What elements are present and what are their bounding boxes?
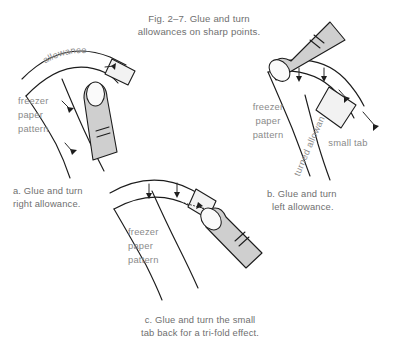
panel-a-pattern-line-2: paper: [18, 109, 43, 120]
panel-b-caption-line-2: left allowance.: [272, 201, 334, 212]
panel-c-pattern-line-2: paper: [128, 240, 153, 251]
panel-a-pattern-line-1: freezer: [18, 95, 49, 106]
panel-b-pattern-line-3: pattern: [253, 129, 284, 140]
panel-a-caption: a. Glue and turn right allowance.: [13, 185, 83, 209]
panel-c-pattern-label: freezer paper pattern: [128, 226, 159, 265]
panel-c-pattern-line-1: freezer: [128, 226, 159, 237]
panel-a-arrow-stem-3: [65, 143, 72, 151]
panel-b-pattern-line-2: paper: [256, 115, 281, 126]
panel-c-diagram: freezer paper pattern c. Glue and turn t…: [110, 180, 262, 338]
panel-a-caption-line-2: right allowance.: [13, 198, 81, 209]
panel-c-thumb: [197, 204, 262, 268]
panel-a-tab: [105, 59, 135, 85]
figure-title-line-2: allowances on sharp points.: [138, 26, 260, 37]
panel-c-caption: c. Glue and turn the small tab back for …: [141, 314, 259, 338]
panel-b-thumb: [265, 22, 345, 85]
panel-b-pattern-label: freezer paper pattern: [253, 101, 284, 140]
figure-illustration: Fig. 2–7. Glue and turn allowances on sh…: [0, 0, 399, 343]
panel-c-pattern-line-3: pattern: [128, 254, 159, 265]
panel-a-diagram: allowance freezer paper pattern a. Glue …: [13, 45, 135, 209]
panel-b-caption-line-1: b. Glue and turn: [267, 188, 337, 199]
panel-b-arrow-stem-4: [363, 112, 376, 127]
figure-canvas: Fig. 2–7. Glue and turn allowances on sh…: [0, 0, 399, 343]
panel-a-pattern-line-3: pattern: [18, 123, 49, 134]
panel-b-caption: b. Glue and turn left allowance.: [267, 188, 337, 212]
figure-title-line-1: Fig. 2–7. Glue and turn: [148, 13, 250, 24]
panel-a-pattern-label: freezer paper pattern: [18, 95, 49, 134]
panel-b-small-tab-label: small tab: [328, 137, 367, 148]
panel-a-arrow-stem-2: [62, 101, 70, 109]
panel-a-allowance-label: allowance: [41, 45, 87, 65]
figure-title: Fig. 2–7. Glue and turn allowances on sh…: [138, 13, 260, 37]
panel-a-thumb: [84, 82, 117, 160]
panel-c-caption-line-1: c. Glue and turn the small: [145, 314, 256, 325]
panel-a-caption-line-1: a. Glue and turn: [13, 185, 83, 196]
panel-c-caption-line-2: tab back for a tri-fold effect.: [141, 327, 259, 338]
panel-b-pattern-line-1: freezer: [253, 101, 284, 112]
